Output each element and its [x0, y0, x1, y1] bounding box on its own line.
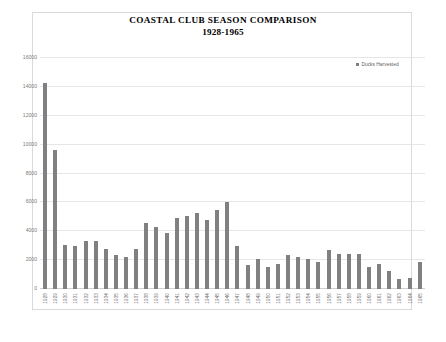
legend-swatch-icon	[356, 63, 359, 66]
bar	[53, 150, 57, 289]
x-axis-tick-label: 1942	[184, 293, 189, 304]
x-axis-tick-label: 1946	[225, 293, 230, 304]
x-axis-tick-label: 1950	[265, 293, 270, 304]
x-axis-tick-label: 1951	[275, 293, 280, 304]
x-axis-tick-label: 1941	[174, 293, 179, 304]
bar-slot: 1960	[364, 58, 374, 289]
bar	[387, 271, 391, 289]
x-axis-tick-label: 1945	[215, 293, 220, 304]
y-axis-tick-label: 12000	[23, 112, 37, 118]
y-axis-tick-label: 14000	[23, 83, 37, 89]
bar-slot: 1954	[303, 58, 313, 289]
bar	[316, 262, 320, 289]
bar-slot: 1939	[151, 58, 161, 289]
bar-slot: 1962	[384, 58, 394, 289]
x-axis-tick-label: 1929	[53, 293, 58, 304]
bar	[225, 202, 229, 289]
bar-slot: 1933	[91, 58, 101, 289]
bar	[134, 249, 138, 289]
bar-slot: 1952	[283, 58, 293, 289]
bar-slot: 1956	[324, 58, 334, 289]
bar-slot: 1931	[70, 58, 80, 289]
bar-slot: 1947	[232, 58, 242, 289]
bar	[418, 262, 422, 289]
x-axis-tick-label: 1933	[93, 293, 98, 304]
bar	[154, 227, 158, 289]
bar	[246, 265, 250, 289]
x-axis-tick-label: 1928	[43, 293, 48, 304]
x-axis-tick-label: 1932	[83, 293, 88, 304]
bar	[286, 255, 290, 289]
bar-slot: 1963	[394, 58, 404, 289]
x-axis-tick-label: 1936	[124, 293, 129, 304]
chart-title-block: COASTAL CLUB SEASON COMPARISON 1928-1965	[0, 14, 446, 38]
x-axis-tick-label: 1953	[296, 293, 301, 304]
bar-slot: 1955	[313, 58, 323, 289]
bar	[104, 249, 108, 289]
x-axis-tick-label: 1964	[407, 293, 412, 304]
bar	[327, 250, 331, 289]
bar	[266, 267, 270, 289]
x-axis-tick-label: 1952	[286, 293, 291, 304]
bar	[165, 233, 169, 289]
x-axis-tick-label: 1965	[417, 293, 422, 304]
bar	[215, 210, 219, 289]
x-axis-tick-label: 1963	[397, 293, 402, 304]
y-axis-tick-label: 2000	[26, 256, 37, 262]
bar-slot: 1932	[81, 58, 91, 289]
bar-slot: 1938	[141, 58, 151, 289]
x-axis-tick-label: 1954	[306, 293, 311, 304]
bar-slot: 1957	[334, 58, 344, 289]
bar	[63, 245, 67, 289]
x-axis-tick-label: 1937	[134, 293, 139, 304]
x-axis-tick-label: 1944	[205, 293, 210, 304]
bar	[367, 267, 371, 289]
x-axis-tick-label: 1939	[154, 293, 159, 304]
x-axis-tick-label: 1960	[367, 293, 372, 304]
bar	[357, 254, 361, 289]
x-axis-tick-label: 1938	[144, 293, 149, 304]
x-axis-tick-label: 1949	[255, 293, 260, 304]
bar-slot: 1941	[172, 58, 182, 289]
y-axis-tick-label: 10000	[23, 141, 37, 147]
bar-slot: 1940	[162, 58, 172, 289]
bar-slot: 1928	[40, 58, 50, 289]
bar	[306, 259, 310, 289]
bar	[124, 257, 128, 289]
x-axis-tick-label: 1958	[346, 293, 351, 304]
x-axis-tick-label: 1931	[73, 293, 78, 304]
bar	[235, 246, 239, 289]
bar	[205, 220, 209, 289]
bar	[185, 216, 189, 289]
bar-slot: 1945	[212, 58, 222, 289]
x-axis-tick-label: 1962	[387, 293, 392, 304]
bar-slot: 1965	[415, 58, 425, 289]
x-axis-tick-label: 1940	[164, 293, 169, 304]
bar	[144, 223, 148, 289]
bar	[377, 264, 381, 289]
x-axis-tick-label: 1943	[194, 293, 199, 304]
bar	[114, 255, 118, 289]
x-axis-tick-label: 1930	[63, 293, 68, 304]
page-title: COASTAL CLUB SEASON COMPARISON	[0, 14, 446, 26]
bar-slot: 1958	[344, 58, 354, 289]
x-axis-tick-label: 1935	[113, 293, 118, 304]
bar-slot: 1948	[243, 58, 253, 289]
x-axis-tick-label: 1947	[235, 293, 240, 304]
bar-slot: 1944	[202, 58, 212, 289]
bar	[195, 213, 199, 289]
bar-slot: 1950	[263, 58, 273, 289]
bar	[73, 246, 77, 289]
bar-slot: 1953	[293, 58, 303, 289]
bar	[94, 241, 98, 289]
chart-subtitle: 1928-1965	[0, 26, 446, 38]
bar-slot: 1946	[222, 58, 232, 289]
bar	[408, 278, 412, 289]
x-axis-tick-label: 1948	[245, 293, 250, 304]
bar-slot: 1935	[111, 58, 121, 289]
bar	[397, 279, 401, 289]
bar	[84, 241, 88, 289]
bar-slot: 1943	[192, 58, 202, 289]
bar	[175, 218, 179, 289]
x-axis-tick-label: 1961	[377, 293, 382, 304]
